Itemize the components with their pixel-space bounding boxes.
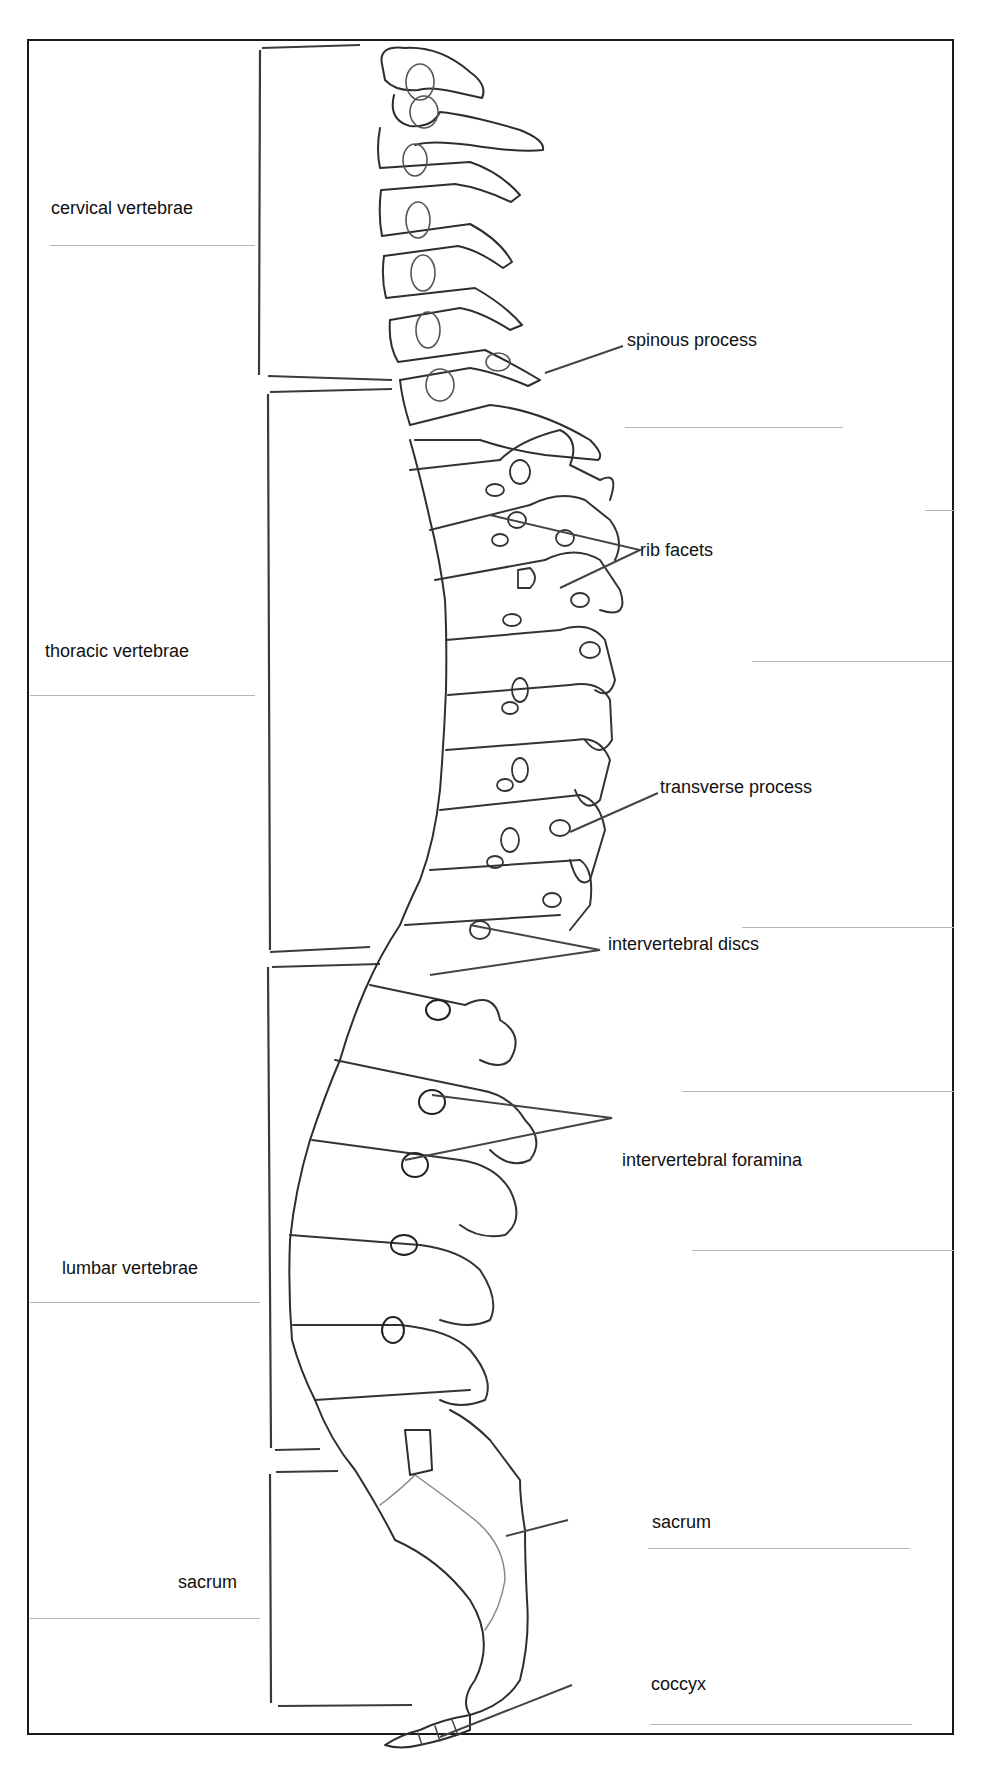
vertebra-c4: [380, 190, 512, 268]
label-lumbar-vertebrae: lumbar vertebrae: [62, 1258, 198, 1279]
leader-intervertebral-discs: [430, 925, 600, 975]
answer-line-rib-facets[interactable]: [752, 661, 952, 662]
sacrum-outline: [315, 1400, 528, 1715]
answer-line-coccyx[interactable]: [650, 1724, 912, 1725]
answer-line-intervertebral-discs[interactable]: [682, 1091, 954, 1092]
sacrum-inner: [380, 1475, 505, 1630]
answer-line-sacrum-region[interactable]: [30, 1618, 260, 1619]
thoracic-posterior: [500, 430, 623, 930]
answer-line-thoracic[interactable]: [30, 695, 255, 696]
leader-sacrum: [506, 1520, 568, 1536]
answer-line-intervertebral-foramina[interactable]: [692, 1250, 954, 1251]
leader-intervertebral-foramina: [405, 1095, 612, 1160]
label-thoracic-vertebrae: thoracic vertebrae: [45, 641, 189, 662]
lumbar-posterior: [400, 1000, 536, 1405]
leader-transverse-process: [570, 793, 658, 832]
thoracic-anterior-outline: [400, 440, 446, 925]
vertebra-c3: [378, 128, 520, 202]
spine-drawing: [289, 48, 622, 1748]
leader-spinous-process: [545, 346, 623, 373]
answer-line-transverse-process[interactable]: [742, 927, 954, 928]
answer-line-lumbar[interactable]: [30, 1302, 260, 1303]
answer-line-stub: [925, 510, 955, 511]
spine-illustration: [0, 0, 989, 1777]
bracket-lumbar: [268, 964, 380, 1450]
label-spinous-process: spinous process: [627, 330, 757, 351]
label-sacrum-callout: sacrum: [652, 1512, 711, 1533]
label-rib-facets: rib facets: [640, 540, 713, 561]
lumbar-foramina: [382, 1000, 450, 1343]
label-intervertebral-discs: intervertebral discs: [608, 934, 759, 955]
vertebra-c7: [400, 380, 600, 460]
answer-line-cervical[interactable]: [50, 245, 255, 246]
label-sacrum-region: sacrum: [178, 1572, 237, 1593]
label-transverse-process: transverse process: [660, 777, 812, 798]
bracket-thoracic: [268, 389, 392, 952]
answer-line-sacrum-callout[interactable]: [648, 1548, 910, 1549]
label-coccyx: coccyx: [651, 1674, 706, 1695]
leader-coccyx: [440, 1685, 572, 1737]
region-brackets: [259, 45, 412, 1706]
thoracic-facets: [470, 460, 600, 939]
leader-lines: [405, 346, 658, 1737]
bracket-sacrum: [270, 1471, 412, 1706]
answer-line-spinous-process[interactable]: [625, 427, 843, 428]
bracket-cervical: [259, 45, 392, 380]
vertebra-c2: [393, 95, 543, 151]
vertebra-c6: [390, 320, 540, 386]
lumbar-anterior-outline: [289, 925, 400, 1400]
sacral-articular: [405, 1430, 432, 1475]
label-cervical-vertebrae: cervical vertebrae: [51, 198, 193, 219]
label-intervertebral-foramina: intervertebral foramina: [622, 1150, 802, 1171]
